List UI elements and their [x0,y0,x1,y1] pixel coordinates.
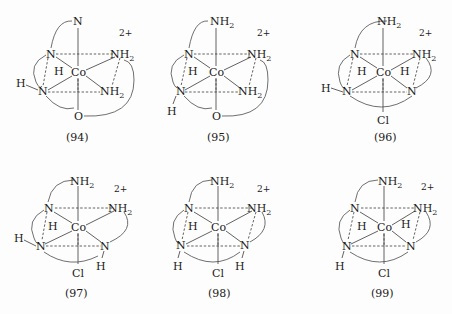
atom-h-upper-left: H [357,220,367,233]
atom-nh2-lower-right: NH2 [238,85,262,100]
atom-nh2-upper-right: NH2 [247,202,271,217]
structure-number: (97) [65,287,88,300]
structure-number: (95) [207,131,230,144]
atom-cl-bottom: Cl [212,267,224,280]
atom-co: Co [209,66,224,79]
atom-cl-bottom: Cl [377,114,389,127]
atom-h-upper-left: H [357,65,367,78]
atom-co: Co [71,221,86,234]
atom-nh2-top: NH2 [377,15,401,30]
atom-h-left: H [14,232,24,245]
atom-h-lower-left: H [167,105,177,118]
atom-n-upper-left: N [350,48,360,61]
atom-h-upper: H [188,65,198,78]
atom-n-upper-left: N [184,202,194,215]
atom-nh2-upper-right: NH2 [108,202,132,217]
atom-h-lower-left: H [173,260,183,273]
atom-n-upper-left: N [44,202,54,215]
atom-n-lower-right: N [100,240,110,253]
atom-co: Co [71,66,86,79]
atom-h-upper: H [48,220,58,233]
atom-nh2-upper-right: NH2 [110,48,134,63]
charge-label: 2+ [419,28,432,38]
charge-label: 2+ [114,184,127,194]
atom-nh2-top: NH2 [70,175,94,190]
atom-n-lower-left: N [36,240,46,253]
atom-nh2-upper-right: NH2 [413,202,437,217]
structure-number: (99) [371,287,394,300]
structure-98: NH2 N NH2 H Co N N H H Cl 2+ (98) [173,175,271,300]
atom-h-upper-right: H [400,65,410,78]
structure-97: NH2 N NH2 H Co H N N H Cl 2+ (97) [14,175,132,300]
atom-h-upper-right: H [401,218,411,231]
atom-h-left: H [321,82,331,95]
atom-nh2-top: NH2 [210,175,234,190]
atom-n-upper-left: N [350,202,360,215]
atom-n-lower-right: N [240,239,250,252]
atom-n-lower-right: N [407,85,417,98]
atom-h-upper: H [188,220,198,233]
atom-n-lower-left: N [342,85,352,98]
structure-96: NH2 N NH2 H Co H H N N Cl 2+ (96) [321,15,436,144]
charge-label: 2+ [257,28,270,38]
atom-cl-bottom: Cl [72,267,84,280]
charge-label: 2+ [257,184,270,194]
atom-cl-bottom: Cl [378,267,390,280]
structure-95: NH2 N NH2 H Co N NH2 H O 2+ (95) [167,15,271,144]
atom-n-lower-left: N [176,239,186,252]
atom-n-lower-left: N [342,240,352,253]
charge-label: 2+ [421,182,434,192]
atom-nh2-top: NH2 [210,15,234,30]
structure-number: (94) [66,131,89,144]
complex-structures-figure: N N NH2 H Co H N NH2 O 2+ (94) NH2 N NH2… [0,0,452,314]
atom-nh2-upper-right: NH2 [247,48,271,63]
atom-nh2-top: NH2 [378,175,402,190]
atom-co: Co [211,221,226,234]
structure-99: NH2 N NH2 H Co H N N H Cl 2+ (99) [335,175,437,300]
atom-h-lower-left: H [335,260,345,273]
atom-n-upper-left: N [184,48,194,61]
atom-h-left: H [16,77,26,90]
atom-nh2-lower-right: NH2 [100,85,124,100]
structure-94: N N NH2 H Co H N NH2 O 2+ (94) [16,15,134,144]
structure-number: (96) [374,131,397,144]
atom-h-upper: H [54,65,64,78]
atom-h-lower-right: H [96,260,106,273]
atom-n-upper-left: N [46,48,56,61]
atom-co: Co [377,221,392,234]
atom-n-top: N [73,15,83,28]
atom-n-lower-left: N [176,85,186,98]
atom-co: Co [376,66,391,79]
atom-n-lower-right: N [406,240,416,253]
atom-o-bottom: O [74,110,83,123]
structure-number: (98) [208,287,231,300]
atom-o-bottom: O [212,110,221,123]
atom-h-lower-right: H [235,260,245,273]
atom-nh2-upper-right: NH2 [412,48,436,63]
charge-label: 2+ [119,28,132,38]
atom-n-lower-left: N [38,85,48,98]
